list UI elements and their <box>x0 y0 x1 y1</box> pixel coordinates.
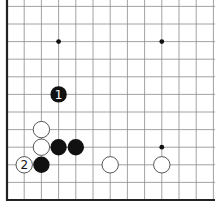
white-stone: 2 <box>16 157 32 173</box>
star-point-icon <box>56 39 61 44</box>
black-stone-disc <box>68 139 84 155</box>
star-point-icon <box>159 39 164 44</box>
black-stone: 1 <box>50 86 66 102</box>
black-stone <box>68 139 84 155</box>
board-background <box>0 0 215 205</box>
white-stone <box>33 121 49 137</box>
black-stone <box>50 139 66 155</box>
white-stone-disc <box>33 121 49 137</box>
go-board: 12 <box>0 0 215 205</box>
black-stone <box>33 157 49 173</box>
white-stone <box>102 157 118 173</box>
white-stone <box>33 139 49 155</box>
move-number-label: 1 <box>55 88 63 102</box>
black-stone-disc <box>33 157 49 173</box>
white-stone <box>154 157 170 173</box>
move-number-label: 2 <box>20 158 28 172</box>
white-stone-disc <box>154 157 170 173</box>
white-stone-disc <box>102 157 118 173</box>
black-stone-disc <box>50 139 66 155</box>
white-stone-disc <box>33 139 49 155</box>
star-point-icon <box>159 145 164 150</box>
